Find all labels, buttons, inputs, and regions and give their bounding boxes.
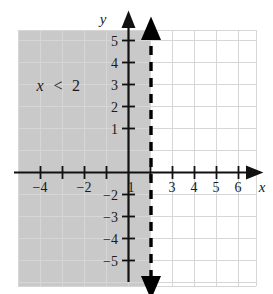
- x-axis-label: x: [258, 179, 266, 195]
- y-tick-label-1: 1: [111, 122, 118, 137]
- x-tick-label-3: 3: [169, 180, 176, 195]
- y-tick-label-neg4: −4: [103, 232, 118, 247]
- y-tick-label-neg3: −3: [103, 210, 118, 225]
- y-tick-label-4: 4: [111, 56, 118, 71]
- inequality-label: x < 2: [35, 77, 80, 94]
- inequality-operator: <: [53, 77, 62, 94]
- y-tick-label-2: 2: [111, 100, 118, 115]
- y-axis-label: y: [98, 11, 107, 27]
- inequality-value: 2: [72, 77, 80, 94]
- coordinate-plane: −4 −2 1 3 4 5 6 5 4 3 2 1 −2 −3 −4 −5 y …: [0, 0, 273, 294]
- y-tick-label-neg2: −2: [103, 188, 118, 203]
- x-tick-label-neg2: −2: [77, 180, 92, 195]
- inequality-variable: x: [35, 77, 43, 94]
- y-tick-label-neg5: −5: [103, 254, 118, 269]
- y-tick-label-5: 5: [111, 34, 118, 49]
- y-tick-label-3: 3: [111, 78, 118, 93]
- x-tick-label-1: 1: [128, 180, 135, 195]
- inequality-graph-figure: −4 −2 1 3 4 5 6 5 4 3 2 1 −2 −3 −4 −5 y …: [0, 0, 273, 294]
- x-tick-label-6: 6: [235, 180, 242, 195]
- x-tick-label-4: 4: [191, 180, 198, 195]
- x-tick-label-neg4: −4: [33, 180, 48, 195]
- x-tick-label-5: 5: [213, 180, 220, 195]
